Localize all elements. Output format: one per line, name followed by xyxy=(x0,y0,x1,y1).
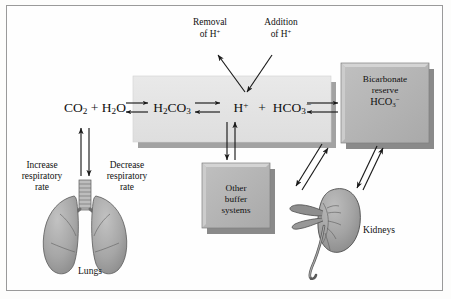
diagram-artwork xyxy=(0,0,451,299)
reaction-term-hco3-minus: HCO3− xyxy=(273,100,311,117)
kidney-bicarbonate-arrows xyxy=(357,146,383,190)
reaction-plus-sign: + xyxy=(258,100,266,116)
increase-respiratory-rate-label: Increaserespiratoryrate xyxy=(22,160,63,193)
lung-exchange-arrows xyxy=(81,128,89,176)
bicarbonate-reserve-label: BicarbonatereserveHCO3− xyxy=(363,74,407,109)
kidney-plasma-arrows xyxy=(296,144,328,190)
reaction-term-h2co3: H2CO3 xyxy=(153,100,191,117)
kidneys-caption: Kidneys xyxy=(363,224,395,235)
acid-base-balance-figure: CO2 + H2O H2CO3 H+ + HCO3− Removalof H+ … xyxy=(0,0,451,299)
other-buffer-systems-label: Otherbuffersystems xyxy=(221,183,250,216)
removal-of-h-label: Removalof H+ xyxy=(193,17,227,40)
kidney-art xyxy=(290,189,360,279)
lungs-caption: Lungs xyxy=(78,265,102,276)
addition-of-h-label: Additionof H+ xyxy=(264,17,297,40)
decrease-respiratory-rate-label: Decreaserespiratoryrate xyxy=(107,160,148,193)
reaction-term-h-plus: H+ xyxy=(234,100,249,116)
reaction-term-co2-h2o: CO2 + H2O xyxy=(64,100,126,117)
lungs-art xyxy=(43,180,127,274)
